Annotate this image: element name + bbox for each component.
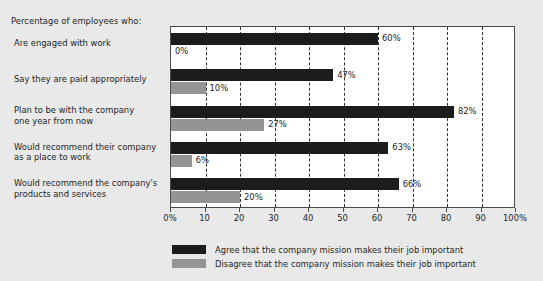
category-label-line: Are engaged with work xyxy=(14,38,170,49)
bar-agree xyxy=(171,106,454,118)
bar-value-label: 10% xyxy=(210,84,229,92)
x-tick-label: 60 xyxy=(372,213,383,223)
category-label: Would recommend their companyas a place … xyxy=(14,142,170,163)
x-tick-mark xyxy=(205,208,206,212)
bar-value-label: 0% xyxy=(175,47,188,55)
x-tick-mark xyxy=(377,208,378,212)
legend-item: Agree that the company mission makes the… xyxy=(172,243,476,256)
bars-layer: 60%0%47%10%82%27%63%6%66%20% xyxy=(171,27,514,207)
category-label-line: products and services xyxy=(14,189,170,200)
bar-value-label: 66% xyxy=(403,180,422,188)
bar-disagree xyxy=(171,119,264,131)
x-tick-label: 100% xyxy=(503,213,527,223)
x-tick-mark xyxy=(481,208,482,212)
x-tick-mark xyxy=(343,208,344,212)
legend-label: Agree that the company mission makes the… xyxy=(215,245,463,255)
category-label: Would recommend the company'sproducts an… xyxy=(14,178,170,199)
legend-item: Disagree that the company mission makes … xyxy=(172,257,476,270)
x-tick-mark xyxy=(308,208,309,212)
category-label-line: one year from now xyxy=(14,116,170,127)
bar-value-label: 27% xyxy=(268,120,287,128)
category-label-line: Would recommend their company xyxy=(14,142,170,153)
x-tick-label: 10 xyxy=(199,213,210,223)
bar-value-label: 47% xyxy=(337,71,356,79)
bar-agree xyxy=(171,178,399,190)
chart-title: Percentage of employees who: xyxy=(11,16,141,26)
bar-value-label: 60% xyxy=(382,34,401,42)
legend-label: Disagree that the company mission makes … xyxy=(215,259,476,269)
x-tick-label: 80 xyxy=(441,213,452,223)
legend: Agree that the company mission makes the… xyxy=(172,243,476,271)
x-tick-mark xyxy=(239,208,240,212)
legend-swatch xyxy=(172,259,206,268)
bar-disagree xyxy=(171,155,192,167)
category-label-line: Plan to be with the company xyxy=(14,105,170,116)
bar-agree xyxy=(171,33,378,45)
category-label-column: Are engaged with workSay they are paid a… xyxy=(11,26,169,208)
bar-value-label: 20% xyxy=(244,193,263,201)
category-label-line: as a place to work xyxy=(14,152,170,163)
plot-area: 60%0%47%10%82%27%63%6%66%20% xyxy=(170,26,515,208)
x-tick-mark xyxy=(515,208,516,212)
x-tick-label: 0% xyxy=(163,213,176,223)
legend-swatch xyxy=(172,245,206,254)
category-label-line: Say they are paid appropriately xyxy=(14,74,170,85)
category-label: Are engaged with work xyxy=(14,38,170,49)
x-tick-label: 20 xyxy=(234,213,245,223)
x-tick-mark xyxy=(274,208,275,212)
x-tick-mark xyxy=(170,208,171,212)
x-tick-label: 30 xyxy=(268,213,279,223)
x-tick-mark xyxy=(446,208,447,212)
bar-value-label: 63% xyxy=(392,143,411,151)
bar-value-label: 82% xyxy=(458,107,477,115)
x-axis: 0%102030405060708090100% xyxy=(170,208,515,213)
bar-agree xyxy=(171,142,388,154)
bar-disagree xyxy=(171,191,240,203)
bar-disagree xyxy=(171,82,206,94)
category-label-line: Would recommend the company's xyxy=(14,178,170,189)
category-label: Say they are paid appropriately xyxy=(14,74,170,85)
x-tick-label: 90 xyxy=(475,213,486,223)
bar-agree xyxy=(171,69,333,81)
x-tick-label: 50 xyxy=(337,213,348,223)
bar-value-label: 6% xyxy=(196,156,209,164)
bar-chart: Percentage of employees who: Are engaged… xyxy=(0,0,543,281)
x-tick-label: 40 xyxy=(303,213,314,223)
x-tick-label: 70 xyxy=(406,213,417,223)
category-label: Plan to be with the companyone year from… xyxy=(14,105,170,126)
x-tick-mark xyxy=(412,208,413,212)
